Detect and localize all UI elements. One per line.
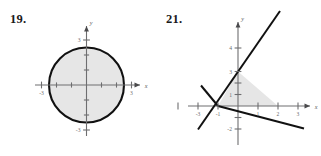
x-axis-arrow-icon [305, 104, 311, 109]
y-tick-label-neg3: -3 [76, 127, 81, 133]
x-tick-label-neg3: -3 [39, 90, 44, 96]
y-tick-label-pos1: 1 [229, 92, 232, 98]
figure-21-graph: -3 -1 1 2 3 4 3 1 -2 x y [160, 0, 321, 156]
y-tick-label-pos3: 3 [78, 37, 81, 43]
x-axis-arrow-icon [135, 83, 141, 88]
figure-21-panel: 21. [160, 0, 321, 156]
falling-boundary-line-left [201, 86, 218, 107]
x-tick-label-neg3: -3 [196, 111, 201, 117]
y-axis-label: y [240, 15, 244, 22]
x-tick-label-neg1: -1 [216, 111, 221, 117]
figure-19-panel: 19. -3 3 [0, 0, 160, 156]
x-axis-label: x [314, 103, 318, 110]
y-tick-label-pos4: 4 [229, 45, 232, 51]
y-axis-label: y [89, 19, 93, 26]
x-tick-label-pos2: 2 [277, 111, 280, 117]
y-tick-label-pos3: 3 [229, 69, 232, 75]
x-tick-label-pos3: 3 [130, 90, 133, 96]
y-axis-arrow-icon [84, 26, 89, 32]
y-axis-arrow-icon [236, 22, 241, 28]
figure-sheet: 19. -3 3 [0, 0, 321, 156]
x-tick-label-pos1: 1 [257, 111, 260, 117]
x-tick-label-pos3: 3 [297, 111, 300, 117]
y-tick-label-neg2: -2 [227, 126, 232, 132]
figure-19-graph: -3 3 3 -3 x y [0, 0, 160, 156]
x-axis-label: x [144, 82, 148, 89]
